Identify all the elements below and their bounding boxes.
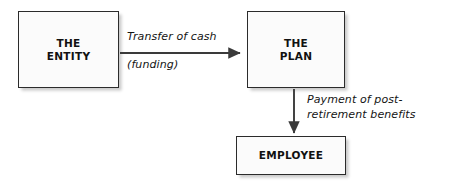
edge-label-funding: (funding) [127,58,178,73]
node-the-plan-label: THE PLAN [280,37,313,63]
node-the-entity-label: THE ENTITY [47,37,91,63]
node-employee[interactable]: EMPLOYEE [236,136,346,175]
node-the-plan[interactable]: THE PLAN [247,11,345,88]
edge-label-transfer-of-cash: Transfer of cash [127,30,217,45]
node-the-entity[interactable]: THE ENTITY [18,11,119,88]
diagram-canvas: THE ENTITY THE PLAN EMPLOYEE Transfer of… [0,0,450,191]
node-employee-label: EMPLOYEE [259,149,324,162]
edge-label-payment-of-post-retirement-benefits: Payment of post- retirement benefits [307,93,416,122]
